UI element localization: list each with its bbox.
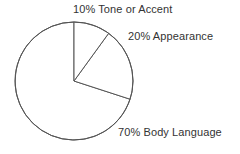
pie-slices <box>15 22 133 140</box>
pie-label-body-language: 70% Body Language <box>118 126 222 139</box>
pie-label-tone-or-accent: 10% Tone or Accent <box>73 3 172 16</box>
pie-chart: 10% Tone or Accent 20% Appearance 70% Bo… <box>0 0 240 154</box>
pie-label-appearance: 20% Appearance <box>128 30 213 43</box>
